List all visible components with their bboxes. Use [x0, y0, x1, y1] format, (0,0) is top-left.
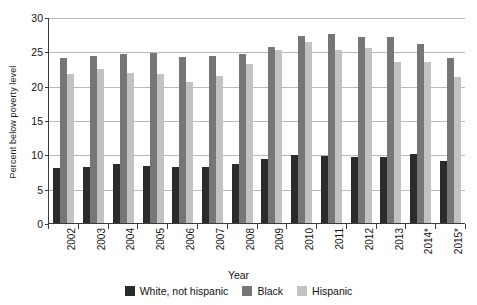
bar-group [227, 18, 257, 223]
y-axis-title: Percent below poverty level [6, 0, 20, 22]
legend-item[interactable]: White, not hispanic [125, 285, 229, 297]
bar [157, 74, 164, 223]
y-axis-tick-label: 30 [31, 12, 43, 24]
bar [410, 154, 417, 223]
bar [305, 42, 312, 223]
legend-label: Black [257, 285, 283, 297]
x-axis-tick-labels: 2002200320042005200620072008200920102011… [48, 230, 465, 270]
x-axis-tick-label: 2014* [424, 228, 434, 274]
x-axis-tick-mark [405, 224, 406, 229]
x-axis-tick-mark [137, 224, 138, 229]
y-axis-tick-label: 20 [31, 81, 43, 93]
bar-group [406, 18, 436, 223]
x-axis-tick-mark [376, 224, 377, 229]
x-axis-tick-mark [108, 224, 109, 229]
bar [179, 57, 186, 223]
bar [83, 167, 90, 223]
y-axis-tick-label: 5 [37, 184, 43, 196]
bar [291, 155, 298, 223]
bar-group [316, 18, 346, 223]
bar [143, 166, 150, 223]
bar [298, 36, 305, 223]
x-axis-tick-mark [286, 224, 287, 229]
bar [387, 37, 394, 223]
bar [53, 168, 60, 223]
legend-swatch-icon [297, 286, 307, 296]
bar-group [257, 18, 287, 223]
bar [454, 77, 461, 223]
bar [186, 82, 193, 223]
bar [447, 58, 454, 223]
x-axis-tick-label: 2012 [365, 228, 375, 274]
bar-group [138, 18, 168, 223]
bar [321, 156, 328, 223]
bar [150, 53, 157, 223]
bar [113, 164, 120, 223]
x-axis-tick-label: 2004 [126, 228, 136, 274]
chart-legend: White, not hispanicBlackHispanic [0, 285, 477, 297]
x-axis-tick-mark [197, 224, 198, 229]
x-axis-tick-label: 2002 [67, 228, 77, 274]
x-axis-tick-mark [316, 224, 317, 229]
poverty-level-bar-chart: Percent below poverty level 051015202530… [0, 0, 477, 305]
x-axis-tick-label: 2006 [186, 228, 196, 274]
bar [232, 164, 239, 223]
legend-item[interactable]: Hispanic [297, 285, 352, 297]
x-axis-tick-mark [435, 224, 436, 229]
y-axis-tick-label: 25 [31, 46, 43, 58]
y-axis-tick-label: 15 [31, 115, 43, 127]
bar [440, 161, 447, 223]
bar-group [198, 18, 228, 223]
x-axis-tick-mark [227, 224, 228, 229]
x-axis-tick-label: 2013 [395, 228, 405, 274]
bar [216, 76, 223, 223]
x-axis-tick-label: 2007 [216, 228, 226, 274]
x-axis-tick-mark [78, 224, 79, 229]
legend-swatch-icon [125, 286, 135, 296]
bar [335, 50, 342, 223]
x-axis-tick-label: 2005 [156, 228, 166, 274]
bar-group [168, 18, 198, 223]
x-axis-tick-mark [346, 224, 347, 229]
bar [120, 54, 127, 223]
bar-group [287, 18, 317, 223]
bar [97, 69, 104, 223]
bar-group [108, 18, 138, 223]
x-axis-title: Year [0, 269, 477, 281]
bar [90, 56, 97, 223]
x-axis-tick-label: 2015* [454, 228, 464, 274]
bar-group [49, 18, 79, 223]
bar [239, 54, 246, 223]
legend-swatch-icon [242, 286, 252, 296]
y-axis-tick-label: 0 [37, 218, 43, 230]
bar [275, 50, 282, 223]
x-axis-tick-mark [257, 224, 258, 229]
bar [424, 62, 431, 223]
plot-area: 051015202530 [48, 18, 465, 224]
bar [261, 159, 268, 223]
x-axis-tick-mark [48, 224, 49, 229]
x-axis-tick-label: 2003 [97, 228, 107, 274]
x-axis-tick-mark [167, 224, 168, 229]
bar-group [346, 18, 376, 223]
legend-item[interactable]: Black [242, 285, 283, 297]
bar [246, 64, 253, 223]
bar [351, 157, 358, 223]
bar [380, 157, 387, 223]
x-axis-tick-label: 2008 [246, 228, 256, 274]
bar [202, 167, 209, 223]
bar [60, 58, 67, 223]
bar [417, 44, 424, 223]
bar [328, 34, 335, 223]
bar-groups [49, 18, 465, 223]
bar-group [79, 18, 109, 223]
bar-group [376, 18, 406, 223]
bar [394, 62, 401, 223]
y-axis-tick-label: 10 [31, 149, 43, 161]
bar [209, 56, 216, 223]
x-axis-tick-label: 2010 [305, 228, 315, 274]
x-axis-tick-label: 2009 [275, 228, 285, 274]
x-axis-tick-label: 2011 [335, 228, 345, 274]
bar-group [435, 18, 465, 223]
bar [358, 37, 365, 223]
